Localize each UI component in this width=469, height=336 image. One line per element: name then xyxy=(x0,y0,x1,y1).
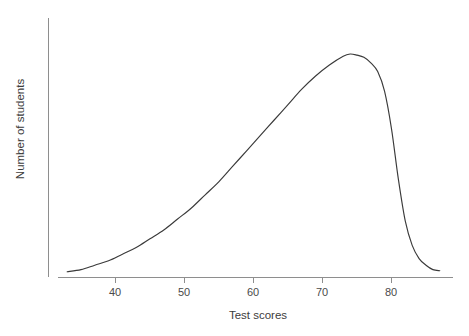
y-axis-title: Number of students xyxy=(14,79,26,180)
distribution-chart: 40 50 60 70 80 Test scores Number of stu… xyxy=(0,0,469,336)
density-curve-series xyxy=(67,54,440,272)
x-axis-title: Test scores xyxy=(229,309,287,321)
x-tick-label-3: 70 xyxy=(316,286,328,298)
x-axis-tick-labels: 40 50 60 70 80 xyxy=(109,286,397,298)
x-tick-label-1: 50 xyxy=(178,286,190,298)
x-tick-label-4: 80 xyxy=(385,286,397,298)
chart-container: 40 50 60 70 80 Test scores Number of stu… xyxy=(0,0,469,336)
x-tick-label-0: 40 xyxy=(109,286,121,298)
x-tick-label-2: 60 xyxy=(247,286,259,298)
